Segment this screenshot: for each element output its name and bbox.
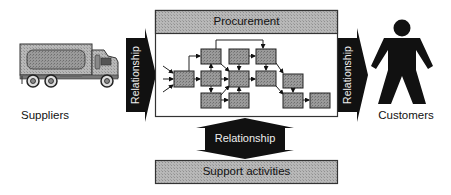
process-step — [174, 71, 194, 87]
left-relationship-label: Relationship — [129, 35, 143, 115]
process-step — [283, 74, 303, 88]
process-step — [229, 49, 249, 64]
right-relationship-label: Relationship — [341, 35, 355, 115]
process-step — [229, 93, 249, 108]
process-step — [201, 49, 221, 64]
process-step — [256, 71, 276, 86]
process-step — [201, 71, 221, 86]
process-step — [283, 93, 303, 108]
suppliers-label: Suppliers — [5, 109, 85, 121]
procurement-title: Procurement — [156, 15, 337, 27]
process-step — [201, 93, 221, 108]
person-icon — [371, 20, 433, 105]
process-step — [256, 49, 276, 64]
bottom-relationship-label: Relationship — [205, 132, 285, 144]
truck-icon — [20, 44, 118, 87]
support-activities-label: Support activities — [156, 165, 337, 177]
customers-label: Customers — [366, 109, 446, 121]
process-step — [310, 93, 330, 108]
process-step — [229, 71, 249, 87]
